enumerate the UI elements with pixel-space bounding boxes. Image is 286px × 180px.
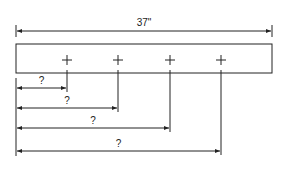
hole-mark-3 xyxy=(17,55,175,132)
dimension-diagram: 37" ???? xyxy=(0,0,286,180)
unknown-dimension-label: ? xyxy=(64,95,70,106)
unknown-dimension-label: ? xyxy=(90,115,96,126)
overall-length-label: 37" xyxy=(137,17,152,28)
unknown-dimension-label: ? xyxy=(39,75,45,86)
hole-mark-4 xyxy=(17,55,226,155)
board-rectangle xyxy=(16,44,272,73)
hole-mark-2 xyxy=(17,55,123,112)
unknown-dimension-label: ? xyxy=(116,138,122,149)
